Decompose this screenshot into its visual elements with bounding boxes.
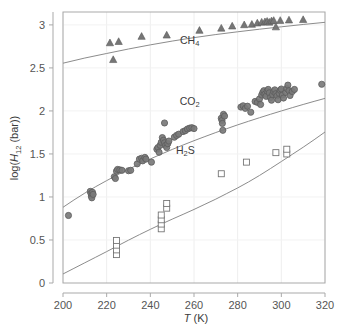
marker-circle <box>161 120 167 126</box>
marker-circle <box>191 125 197 131</box>
marker-circle <box>285 82 291 88</box>
marker-circle <box>319 81 325 87</box>
marker-open-square <box>113 237 119 243</box>
y-tick-label: 2 <box>39 105 45 117</box>
marker-circle <box>148 159 154 165</box>
x-axis-title: T (K) <box>184 312 208 324</box>
x-tick-label: 280 <box>228 299 246 311</box>
y-tick-label: 0 <box>39 277 45 289</box>
y-tick-label: 0.5 <box>30 234 45 246</box>
x-tick-label: 220 <box>97 299 115 311</box>
x-tick-label: 300 <box>272 299 290 311</box>
marker-open-square <box>158 212 164 218</box>
marker-circle <box>119 167 125 173</box>
y-tick-label: 1.5 <box>30 148 45 160</box>
marker-circle <box>257 101 263 107</box>
chart-figure: 200220240260280300320 00.511.522.53 CH4C… <box>0 0 341 332</box>
marker-circle <box>221 113 227 119</box>
x-tick-label: 260 <box>185 299 203 311</box>
marker-circle <box>244 103 250 109</box>
y-tick-label: 2.5 <box>30 62 45 74</box>
svg-text:T (K): T (K) <box>184 312 208 324</box>
marker-circle <box>268 97 274 103</box>
marker-circle <box>65 212 71 218</box>
marker-open-square <box>243 159 249 165</box>
marker-circle <box>291 86 297 92</box>
marker-circle <box>219 120 225 126</box>
x-tick-label: 200 <box>54 299 72 311</box>
x-tick-label: 320 <box>316 299 334 311</box>
marker-circle <box>90 191 96 197</box>
x-tick-label: 240 <box>141 299 159 311</box>
y-tick-label: 1 <box>39 191 45 203</box>
scatter-plot-svg: 200220240260280300320 00.511.522.53 CH4C… <box>0 0 341 332</box>
marker-circle <box>156 149 162 155</box>
marker-open-square <box>164 200 170 206</box>
marker-open-square <box>218 171 224 177</box>
marker-circle <box>220 127 226 133</box>
marker-circle <box>112 175 118 181</box>
plot-background <box>0 0 341 332</box>
marker-open-square <box>273 150 279 156</box>
marker-open-square <box>284 146 290 152</box>
marker-circle <box>248 109 254 115</box>
marker-circle <box>166 138 172 144</box>
marker-circle <box>128 167 134 173</box>
y-tick-label: 3 <box>39 19 45 31</box>
